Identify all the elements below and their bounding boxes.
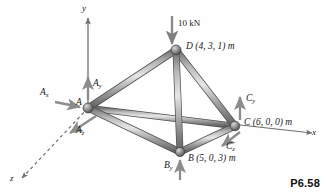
reaction-sub-Ay: y [99,82,102,89]
reaction-label-Ay: Ay [93,79,102,89]
node-label-A: A [76,98,82,108]
reaction-sub-Cy: y [252,97,255,104]
space-truss-figure: y x z 10 kN A D (4, 3, 1) m C (6, 0, 0) … [0,0,328,196]
joint-D [171,45,181,55]
reaction-sub-Ax: x [46,91,49,98]
reaction-label-Ax: Ax [40,88,49,98]
reaction-sub-By: y [170,164,173,171]
reaction-sub-Az: z [82,129,85,136]
z-axis-label: z [10,174,14,183]
joint-B [175,147,184,156]
reaction-label-Az: Az [76,126,84,136]
load-label: 10 kN [178,19,200,28]
reaction-label-Cy: Cy [246,94,255,104]
reaction-label-Cz: Cz [226,142,235,152]
z-axis-line [22,108,88,178]
figure-caption: P6.58 [290,177,320,189]
node-label-D: D (4, 3, 1) m [186,42,235,52]
member-D-C [176,50,235,126]
axes-group [22,18,312,178]
node-label-C: C (6, 0, 0) m [244,118,292,128]
reaction-sub-Cz: z [232,145,235,152]
x-axis-label: x [312,128,316,137]
member-D-B [176,50,180,152]
joint-A [83,103,93,113]
node-label-B: B (5, 0, 3) m [188,154,236,164]
y-axis-label: y [82,4,86,13]
joint-C [230,121,240,131]
truss-members [88,50,235,152]
reaction-label-By: By [164,161,173,171]
